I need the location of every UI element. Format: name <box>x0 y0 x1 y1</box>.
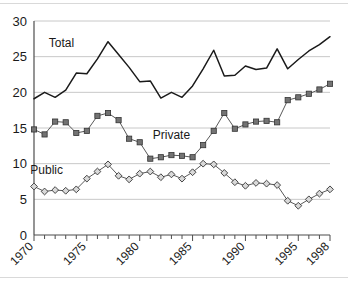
data-point-marker <box>274 182 281 189</box>
x-axis-tick-label: 1980 <box>113 239 142 268</box>
data-point-marker <box>53 119 58 124</box>
data-point-marker <box>190 155 195 160</box>
data-point-marker <box>94 168 101 175</box>
x-axis-tick-label: 1995 <box>272 239 301 268</box>
data-point-marker <box>148 156 153 161</box>
data-point-marker <box>31 127 36 132</box>
series-public <box>31 160 334 209</box>
data-point-marker <box>306 91 311 96</box>
data-point-marker <box>222 110 227 115</box>
data-point-marker <box>137 140 142 145</box>
y-axis-tick-labels-group: 051015202530 <box>13 14 27 243</box>
series-label-private: Private <box>153 128 191 142</box>
line-chart-svg: 051015202530 197019751980198519901995199… <box>0 0 348 283</box>
series-total <box>34 37 330 99</box>
series-line <box>34 84 330 159</box>
y-axis-tick-label: 10 <box>13 156 27 171</box>
data-point-marker <box>52 187 59 194</box>
data-point-marker <box>295 202 302 209</box>
data-point-marker <box>31 183 38 190</box>
data-point-marker <box>157 174 164 181</box>
data-point-marker <box>116 118 121 123</box>
data-point-marker <box>327 186 334 193</box>
data-point-marker <box>275 120 280 125</box>
y-axis-tick-label: 15 <box>13 121 27 136</box>
y-axis-tick-label: 30 <box>13 14 27 29</box>
data-point-marker <box>147 168 154 175</box>
data-point-marker <box>95 113 100 118</box>
chart-container: 051015202530 197019751980198519901995199… <box>0 0 348 283</box>
data-point-marker <box>41 188 48 195</box>
data-point-marker <box>242 182 249 189</box>
data-point-marker <box>253 119 258 124</box>
x-axis-tick-label: 1975 <box>60 239 89 268</box>
data-point-marker <box>63 120 68 125</box>
data-series-group <box>31 37 334 209</box>
data-point-marker <box>179 153 184 158</box>
x-axis-tick-label: 1998 <box>303 239 332 268</box>
data-point-marker <box>327 81 332 86</box>
x-axis-tick-label: 1985 <box>166 239 195 268</box>
data-point-marker <box>126 176 133 183</box>
data-point-marker <box>264 118 269 123</box>
data-point-marker <box>316 190 323 197</box>
y-axis-tick-label: 20 <box>13 85 27 100</box>
data-point-marker <box>211 128 216 133</box>
data-point-marker <box>169 153 174 158</box>
data-point-marker <box>284 197 291 204</box>
bottom-divider-rule <box>0 277 348 278</box>
series-label-total: Total <box>49 36 74 50</box>
series-label-public: Public <box>30 163 63 177</box>
x-axis-tick-labels-group: 1970197519801985199019951998 <box>7 239 332 268</box>
y-axis-tick-label: 5 <box>20 192 27 207</box>
data-point-marker <box>296 95 301 100</box>
data-point-marker <box>84 128 89 133</box>
data-point-marker <box>317 87 322 92</box>
y-axis-tick-label: 25 <box>13 49 27 64</box>
data-point-marker <box>158 155 163 160</box>
data-point-marker <box>263 180 270 187</box>
data-point-marker <box>285 98 290 103</box>
data-point-marker <box>305 196 312 203</box>
series-line <box>34 37 330 99</box>
data-point-marker <box>74 130 79 135</box>
data-point-marker <box>232 126 237 131</box>
data-point-marker <box>253 180 260 187</box>
data-point-marker <box>127 136 132 141</box>
gridlines-group <box>34 21 330 199</box>
data-point-marker <box>105 110 110 115</box>
data-point-marker <box>179 175 186 182</box>
x-axis-tick-label: 1990 <box>219 239 248 268</box>
data-point-marker <box>168 171 175 178</box>
data-point-marker <box>62 187 69 194</box>
data-point-marker <box>42 132 47 137</box>
top-divider-rule <box>0 3 348 4</box>
series-private <box>31 81 332 161</box>
data-point-marker <box>136 170 143 177</box>
data-point-marker <box>201 143 206 148</box>
data-point-marker <box>243 122 248 127</box>
x-axis-tick-label: 1970 <box>7 239 36 268</box>
